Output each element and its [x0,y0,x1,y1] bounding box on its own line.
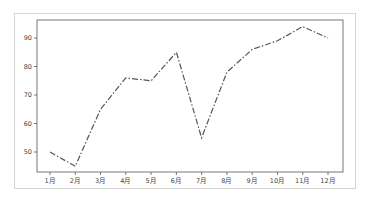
y-tick-label: 80 [24,63,32,71]
x-tick-label: 10月 [270,177,285,185]
x-tick-label: 4月 [120,177,131,185]
y-tick-label: 60 [24,120,32,128]
x-axis: 1月2月3月4月5月6月7月8月9月10月11月12月 [44,172,335,185]
x-tick-label: 1月 [44,177,55,185]
x-tick-label: 2月 [70,177,81,185]
x-tick-label: 9月 [247,177,258,185]
x-tick-label: 8月 [221,177,232,185]
y-tick-label: 90 [24,34,32,42]
x-tick-label: 5月 [146,177,157,185]
x-tick-label: 3月 [95,177,106,185]
data-line [50,27,328,167]
x-tick-label: 6月 [171,177,182,185]
line-chart: 5060708090 1月2月3月4月5月6月7月8月9月10月11月12月 [0,0,370,198]
x-tick-label: 11月 [295,177,310,185]
y-tick-label: 50 [24,148,32,156]
y-axis: 5060708090 [24,34,37,156]
x-tick-label: 12月 [320,177,335,185]
y-tick-label: 70 [24,91,32,99]
x-tick-label: 7月 [196,177,207,185]
